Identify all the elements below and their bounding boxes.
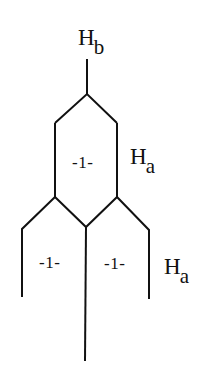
bond-top-roof: [55, 94, 117, 123]
atom-label-ha-lower: Ha: [164, 255, 189, 278]
atom-label-subscript: a: [180, 264, 189, 288]
atom-label-hb: Hb: [78, 26, 104, 49]
atom-label-main: H: [130, 144, 147, 169]
atom-label-subscript: a: [146, 154, 155, 178]
atom-label-subscript: b: [94, 35, 105, 59]
bond-bottom-v: [55, 197, 117, 227]
ring-label-top: -1-: [72, 154, 93, 171]
bond-center-stem: [85, 227, 86, 361]
ring-label-bottom-left: -1-: [39, 254, 60, 271]
bond-right-branch: [117, 197, 149, 299]
bond-left-branch: [22, 197, 55, 297]
ring-label-bottom-right: -1-: [104, 255, 125, 272]
atom-label-main: H: [78, 25, 95, 50]
atom-label-main: H: [164, 254, 181, 279]
atom-label-ha-upper: Ha: [130, 145, 155, 168]
structure-diagram: Hb Ha Ha -1- -1- -1-: [0, 0, 206, 370]
